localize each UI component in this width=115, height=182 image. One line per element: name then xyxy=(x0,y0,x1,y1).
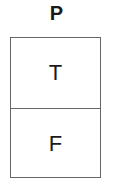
truth-value-cell: F xyxy=(11,109,100,178)
column-header-p: P xyxy=(0,1,113,25)
truth-table: T F xyxy=(10,37,101,178)
truth-value-cell: T xyxy=(11,38,100,109)
